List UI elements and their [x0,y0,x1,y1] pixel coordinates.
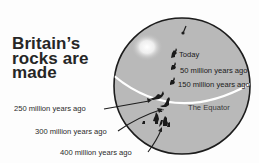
label-300-million: 300 million years ago [35,127,107,136]
globe-highlight [131,33,163,61]
label-50-million: 50 million years ago [180,66,248,75]
label-equator: The Equator [188,103,230,112]
label-today: Today [179,50,199,59]
label-400-million: 400 million years ago [60,148,132,157]
label-250-million: 250 million years ago [14,104,86,113]
label-150-million: 150 million years ago [178,80,250,89]
